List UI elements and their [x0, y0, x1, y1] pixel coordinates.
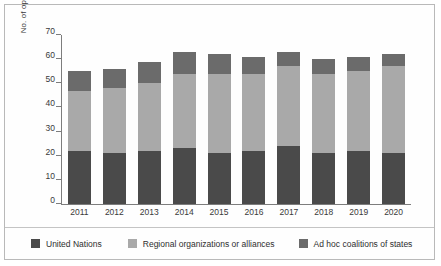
y-axis-tick — [56, 131, 61, 132]
bar-segment — [242, 74, 265, 151]
bar-segment — [382, 66, 405, 153]
bar-segment — [347, 151, 370, 204]
bar-segment — [173, 74, 196, 149]
stacked-bar[interactable] — [138, 62, 161, 204]
legend-label-regional-organizations: Regional organizations or alliances — [143, 239, 275, 249]
bar-segment — [138, 151, 161, 204]
y-axis-tick — [56, 34, 61, 35]
bar-segment — [347, 71, 370, 151]
x-axis-tick-label: 2012 — [97, 207, 132, 221]
chart-legend: United Nations Regional organizations or… — [5, 228, 434, 259]
stacked-bar[interactable] — [312, 59, 335, 204]
y-axis-tick-label: 30 — [27, 124, 55, 132]
bar-cell — [97, 35, 132, 204]
bar-segment — [382, 54, 405, 66]
stacked-bar[interactable] — [208, 54, 231, 204]
bar-segment — [312, 59, 335, 73]
bar-cell — [306, 35, 341, 204]
bar-cell — [271, 35, 306, 204]
stacked-bar[interactable] — [242, 57, 265, 204]
x-axis-labels: 2011201220132014201520162017201820192020 — [62, 207, 411, 221]
bar-segment — [208, 74, 231, 154]
y-axis-tick — [56, 203, 61, 204]
y-axis-tick-label: 20 — [27, 148, 55, 156]
bar-cell — [237, 35, 272, 204]
y-axis-tick — [56, 155, 61, 156]
bar-segment — [242, 151, 265, 204]
x-axis-tick-label: 2016 — [237, 207, 272, 221]
bar-segment — [312, 153, 335, 204]
legend-label-united-nations: United Nations — [46, 239, 102, 249]
y-axis-tick-label: 50 — [27, 75, 55, 83]
bar-segment — [173, 148, 196, 204]
chart-area: No. of operations 010203040506070 201120… — [5, 5, 434, 227]
stacked-bar[interactable] — [103, 69, 126, 204]
bar-segment — [277, 52, 300, 66]
bar-segment — [103, 153, 126, 204]
y-axis-tick-label: 40 — [27, 99, 55, 107]
stacked-bar[interactable] — [173, 52, 196, 204]
bar-segment — [347, 57, 370, 71]
x-axis-tick-label: 2015 — [202, 207, 237, 221]
bar-group — [62, 35, 411, 204]
bar-cell — [167, 35, 202, 204]
legend-item-united-nations[interactable]: United Nations — [31, 239, 102, 249]
bar-segment — [208, 153, 231, 204]
y-axis-tick — [56, 82, 61, 83]
plot-area: 010203040506070 — [61, 35, 411, 205]
stacked-bar[interactable] — [347, 57, 370, 204]
bar-segment — [68, 151, 91, 204]
x-axis-tick-label: 2011 — [62, 207, 97, 221]
y-axis-tick-label: 10 — [27, 172, 55, 180]
x-axis-tick-label: 2017 — [271, 207, 306, 221]
bar-segment — [312, 74, 335, 154]
bar-cell — [376, 35, 411, 204]
bar-segment — [277, 66, 300, 146]
bar-cell — [341, 35, 376, 204]
bar-segment — [138, 62, 161, 84]
legend-swatch-united-nations — [31, 239, 40, 248]
x-axis-line — [61, 204, 411, 205]
x-axis-tick-label: 2018 — [306, 207, 341, 221]
legend-item-regional-organizations[interactable]: Regional organizations or alliances — [128, 239, 275, 249]
chart-frame: No. of operations 010203040506070 201120… — [4, 4, 435, 260]
y-axis-tick — [56, 58, 61, 59]
x-axis-tick-label: 2013 — [132, 207, 167, 221]
bar-segment — [103, 69, 126, 88]
y-axis-tick-label: 70 — [27, 27, 55, 35]
bar-segment — [242, 57, 265, 74]
y-axis-tick — [56, 179, 61, 180]
x-axis-tick-label: 2014 — [167, 207, 202, 221]
legend-swatch-regional-organizations — [128, 239, 137, 248]
bar-segment — [68, 91, 91, 151]
bar-segment — [173, 52, 196, 74]
bar-segment — [68, 71, 91, 90]
bar-cell — [132, 35, 167, 204]
stacked-bar[interactable] — [382, 54, 405, 204]
bar-cell — [202, 35, 237, 204]
bar-segment — [138, 83, 161, 151]
y-axis-tick — [56, 106, 61, 107]
bar-segment — [103, 88, 126, 153]
legend-label-ad-hoc-coalitions: Ad hoc coalitions of states — [314, 239, 413, 249]
y-axis-tick-label: 60 — [27, 51, 55, 59]
legend-swatch-ad-hoc-coalitions — [299, 239, 308, 248]
legend-item-ad-hoc-coalitions[interactable]: Ad hoc coalitions of states — [299, 239, 413, 249]
stacked-bar[interactable] — [277, 52, 300, 204]
bar-segment — [208, 54, 231, 73]
stacked-bar[interactable] — [68, 71, 91, 204]
bar-cell — [62, 35, 97, 204]
x-axis-tick-label: 2019 — [341, 207, 376, 221]
y-axis-tick-label: 0 — [27, 196, 55, 204]
x-axis-tick-label: 2020 — [376, 207, 411, 221]
bar-segment — [277, 146, 300, 204]
bar-segment — [382, 153, 405, 204]
